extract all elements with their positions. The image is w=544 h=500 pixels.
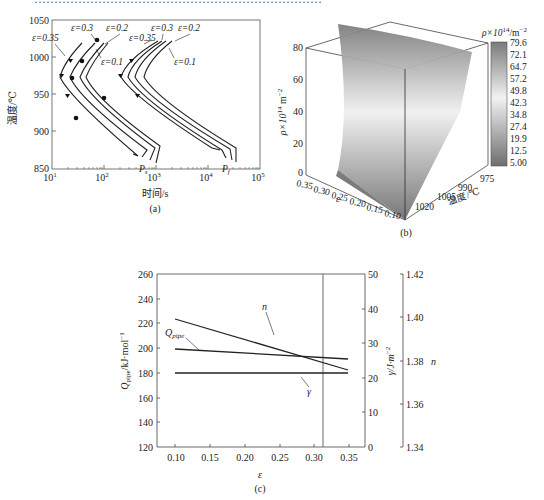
svg-text:180: 180 xyxy=(138,368,153,379)
svg-text:0: 0 xyxy=(298,167,303,178)
svg-text:220: 220 xyxy=(138,318,153,329)
chart-a-caption: (a) xyxy=(149,203,160,215)
svg-text:42.3: 42.3 xyxy=(510,98,527,108)
chart-a-x-axis: 101 102 103 104 105 xyxy=(43,165,265,183)
svg-text:ε=0.2: ε=0.2 xyxy=(106,23,128,33)
chart-c-right-axis: 1.42 1.40 1.38 1.36 1.34 n xyxy=(400,269,436,453)
svg-text:ε=0.1: ε=0.1 xyxy=(174,57,196,67)
svg-text:1.42: 1.42 xyxy=(406,269,424,280)
y-tick-label: 1050 xyxy=(29,15,49,26)
svg-text:120: 120 xyxy=(138,442,153,453)
svg-text:5.00: 5.00 xyxy=(510,158,527,168)
chart-c-left-label: Qpipe/kJ·mol−1 xyxy=(118,332,132,390)
svg-text:34.8: 34.8 xyxy=(510,110,527,120)
chart-b-temp-axis: 975 990 1005 1020 温度/℃ xyxy=(415,174,495,212)
n-line xyxy=(175,319,348,370)
svg-text:0.20: 0.20 xyxy=(236,452,254,463)
svg-text:72.1: 72.1 xyxy=(510,50,527,60)
svg-text:0: 0 xyxy=(368,442,373,453)
svg-text:20: 20 xyxy=(293,138,303,149)
svg-text:n: n xyxy=(431,356,436,367)
y-tick-label: 900 xyxy=(34,126,49,137)
chart-a-x-label: 时间/s xyxy=(142,187,169,199)
svg-text:1.36: 1.36 xyxy=(406,399,424,410)
chart-c-frame xyxy=(157,274,323,447)
svg-text:γ/J·m−2: γ/J·m−2 xyxy=(384,346,396,375)
colorbar xyxy=(491,42,507,166)
svg-text:ε=0.35: ε=0.35 xyxy=(32,33,59,43)
svg-text:1.40: 1.40 xyxy=(406,312,424,323)
svg-text:60: 60 xyxy=(293,74,303,85)
svg-text:0.30: 0.30 xyxy=(313,184,332,197)
y-tick-label: 950 xyxy=(34,89,49,100)
svg-text:ε=0.3: ε=0.3 xyxy=(151,23,173,33)
svg-text:0.35: 0.35 xyxy=(340,452,358,463)
svg-text:260: 260 xyxy=(138,269,153,280)
chart-b-caption: (b) xyxy=(400,227,412,239)
svg-text:50: 50 xyxy=(368,269,378,280)
svg-text:0.20: 0.20 xyxy=(349,196,368,209)
svg-text:0.10: 0.10 xyxy=(384,208,403,221)
svg-text:0.10: 0.10 xyxy=(167,452,185,463)
svg-text:Qpipe: Qpipe xyxy=(165,327,184,340)
svg-text:ε=0.35: ε=0.35 xyxy=(129,33,156,43)
svg-text:1.38: 1.38 xyxy=(406,356,424,367)
svg-text:Ps: Ps xyxy=(138,164,148,176)
svg-text:ε=0.3: ε=0.3 xyxy=(71,23,93,33)
svg-text:ε=0.1: ε=0.1 xyxy=(101,57,123,67)
svg-text:0.30: 0.30 xyxy=(305,452,323,463)
svg-text:10: 10 xyxy=(368,407,378,418)
svg-text:0.35: 0.35 xyxy=(296,178,315,191)
colorbar-title: ρ×1014/m−2 xyxy=(481,26,527,38)
svg-text:30: 30 xyxy=(368,338,378,349)
svg-text:40: 40 xyxy=(368,304,378,315)
figure-canvas: 1050 1000 950 900 850 温度/℃ 101 102 103 1… xyxy=(0,0,544,500)
chart-a: 1050 1000 950 900 850 温度/℃ 101 102 103 1… xyxy=(6,15,265,215)
chart-c: 260 240 220 200 180 160 140 120 Qpipe/kJ… xyxy=(118,269,436,495)
svg-text:101: 101 xyxy=(43,171,57,183)
chart-b: 80 60 40 20 0 ρ×1014 m−2 0.35 0.30 0.25 … xyxy=(276,22,527,239)
svg-text:105: 105 xyxy=(251,171,265,183)
svg-text:140: 140 xyxy=(138,417,153,428)
svg-text:12.5: 12.5 xyxy=(510,146,527,156)
svg-text:240: 240 xyxy=(138,294,153,305)
chart-a-annotations: ε=0.35 ε=0.3 ε=0.2 ε=0.1 ε=0.35 ε=0.3 ε=… xyxy=(32,23,231,176)
chart-c-lines xyxy=(175,319,348,373)
colorbar-ticks: 79.6 72.1 64.7 57.2 49.8 42.3 34.8 27.4 … xyxy=(510,38,527,168)
svg-text:40: 40 xyxy=(293,106,303,117)
svg-text:Pf: Pf xyxy=(221,164,231,176)
svg-text:80: 80 xyxy=(293,42,303,53)
svg-text:103: 103 xyxy=(147,171,161,183)
chart-c-annotations: n Qpipe γ xyxy=(165,301,312,397)
chart-b-z-axis: 80 60 40 20 0 xyxy=(293,42,303,178)
chart-b-z-label: ρ×1014 m−2 xyxy=(276,88,288,136)
svg-text:0.15: 0.15 xyxy=(366,202,385,215)
svg-text:ε=0.2: ε=0.2 xyxy=(178,23,200,33)
svg-text:n: n xyxy=(262,301,267,312)
svg-text:γ: γ xyxy=(307,386,312,397)
svg-text:27.4: 27.4 xyxy=(510,122,527,132)
svg-text:49.8: 49.8 xyxy=(510,86,527,96)
svg-text:19.9: 19.9 xyxy=(510,134,527,144)
chart-a-y-label: 温度/℃ xyxy=(6,91,18,125)
y-tick-label: 1000 xyxy=(29,52,49,63)
svg-text:102: 102 xyxy=(95,171,109,183)
chart-c-caption: (c) xyxy=(254,483,265,495)
q-pipe-line xyxy=(175,349,348,359)
svg-text:1020: 1020 xyxy=(415,202,434,212)
svg-text:0.15: 0.15 xyxy=(201,452,219,463)
chart-c-x-label: ε xyxy=(258,469,262,480)
svg-text:ε: ε xyxy=(336,194,340,204)
svg-text:20: 20 xyxy=(368,373,378,384)
svg-text:64.7: 64.7 xyxy=(510,62,527,72)
svg-text:0.25: 0.25 xyxy=(271,452,289,463)
svg-text:79.6: 79.6 xyxy=(510,38,527,48)
svg-text:975: 975 xyxy=(480,174,495,184)
chart-c-mid-axis: 50 40 30 20 10 0 γ/J·m−2 xyxy=(323,269,396,453)
svg-text:0.25: 0.25 xyxy=(331,190,350,203)
svg-text:1.34: 1.34 xyxy=(406,442,424,453)
svg-text:57.2: 57.2 xyxy=(510,74,527,84)
svg-text:104: 104 xyxy=(199,171,213,183)
svg-text:160: 160 xyxy=(138,393,153,404)
svg-text:200: 200 xyxy=(138,343,153,354)
